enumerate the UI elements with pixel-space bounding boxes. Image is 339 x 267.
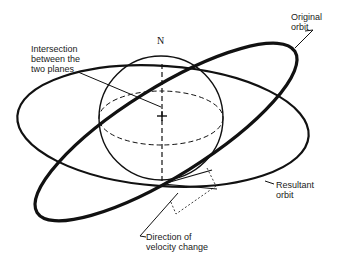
original-orbit-label: Original orbit bbox=[291, 12, 322, 32]
intersection-label: Intersection between the two planes bbox=[31, 44, 80, 74]
north-label: N bbox=[157, 35, 164, 46]
equator-dashed bbox=[99, 91, 223, 145]
resultant-orbit-leader bbox=[265, 181, 274, 184]
orbit-plane-change-diagram: N Intersection between the two planes Or… bbox=[0, 0, 339, 267]
resultant-orbit bbox=[13, 56, 313, 196]
velocity-change-label: Direction of velocity change bbox=[146, 232, 208, 252]
diagram-canvas bbox=[0, 0, 339, 267]
original-orbit-leader bbox=[295, 30, 313, 48]
velocity-change-leader bbox=[140, 193, 178, 237]
resultant-orbit-label: Resultant orbit bbox=[276, 180, 314, 200]
